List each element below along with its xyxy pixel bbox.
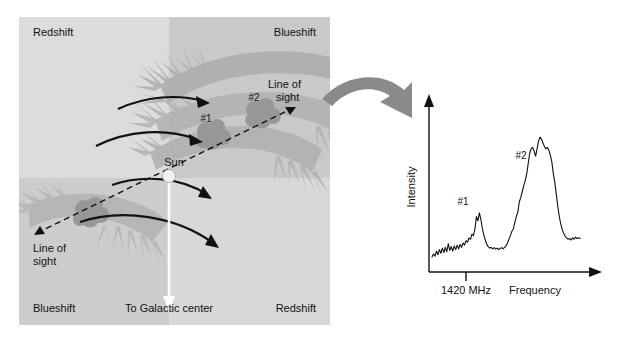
label-to-galactic-center: To Galactic center — [125, 302, 213, 314]
label-cloud-1: #1 — [200, 113, 212, 124]
label-blueshift-bottom-left: Blueshift — [33, 302, 75, 314]
spectrum-panel: Intensity Frequency 1420 MHz #1 #2 — [405, 94, 602, 296]
label-sun: Sun — [164, 156, 184, 168]
peak-2-label: #2 — [515, 150, 527, 161]
figure-root: Redshift Blueshift Blueshift Redshift To… — [0, 0, 625, 342]
label-line-of-sight-lower-line2: sight — [33, 255, 56, 267]
x-axis-label: Frequency — [509, 284, 561, 296]
galaxy-panel: Redshift Blueshift Blueshift Redshift To… — [6, 17, 396, 325]
spectrum-trace — [432, 137, 580, 257]
label-cloud-2: #2 — [248, 92, 260, 103]
x-axis-tick-label: 1420 MHz — [441, 284, 491, 296]
leads-to-arrow — [322, 77, 412, 118]
label-line-of-sight-upper-line1: Line of — [268, 78, 302, 90]
peak-1-label: #1 — [457, 196, 469, 207]
label-line-of-sight-lower-line1: Line of — [33, 242, 67, 254]
x-axis — [429, 267, 602, 277]
label-blueshift-top-right: Blueshift — [274, 26, 316, 38]
y-axis — [424, 94, 434, 272]
sun-marker — [163, 170, 176, 183]
y-axis-label: Intensity — [405, 166, 417, 207]
label-line-of-sight-upper-line2: sight — [276, 91, 299, 103]
label-redshift-top-left: Redshift — [33, 26, 73, 38]
label-redshift-bottom-right: Redshift — [276, 302, 316, 314]
